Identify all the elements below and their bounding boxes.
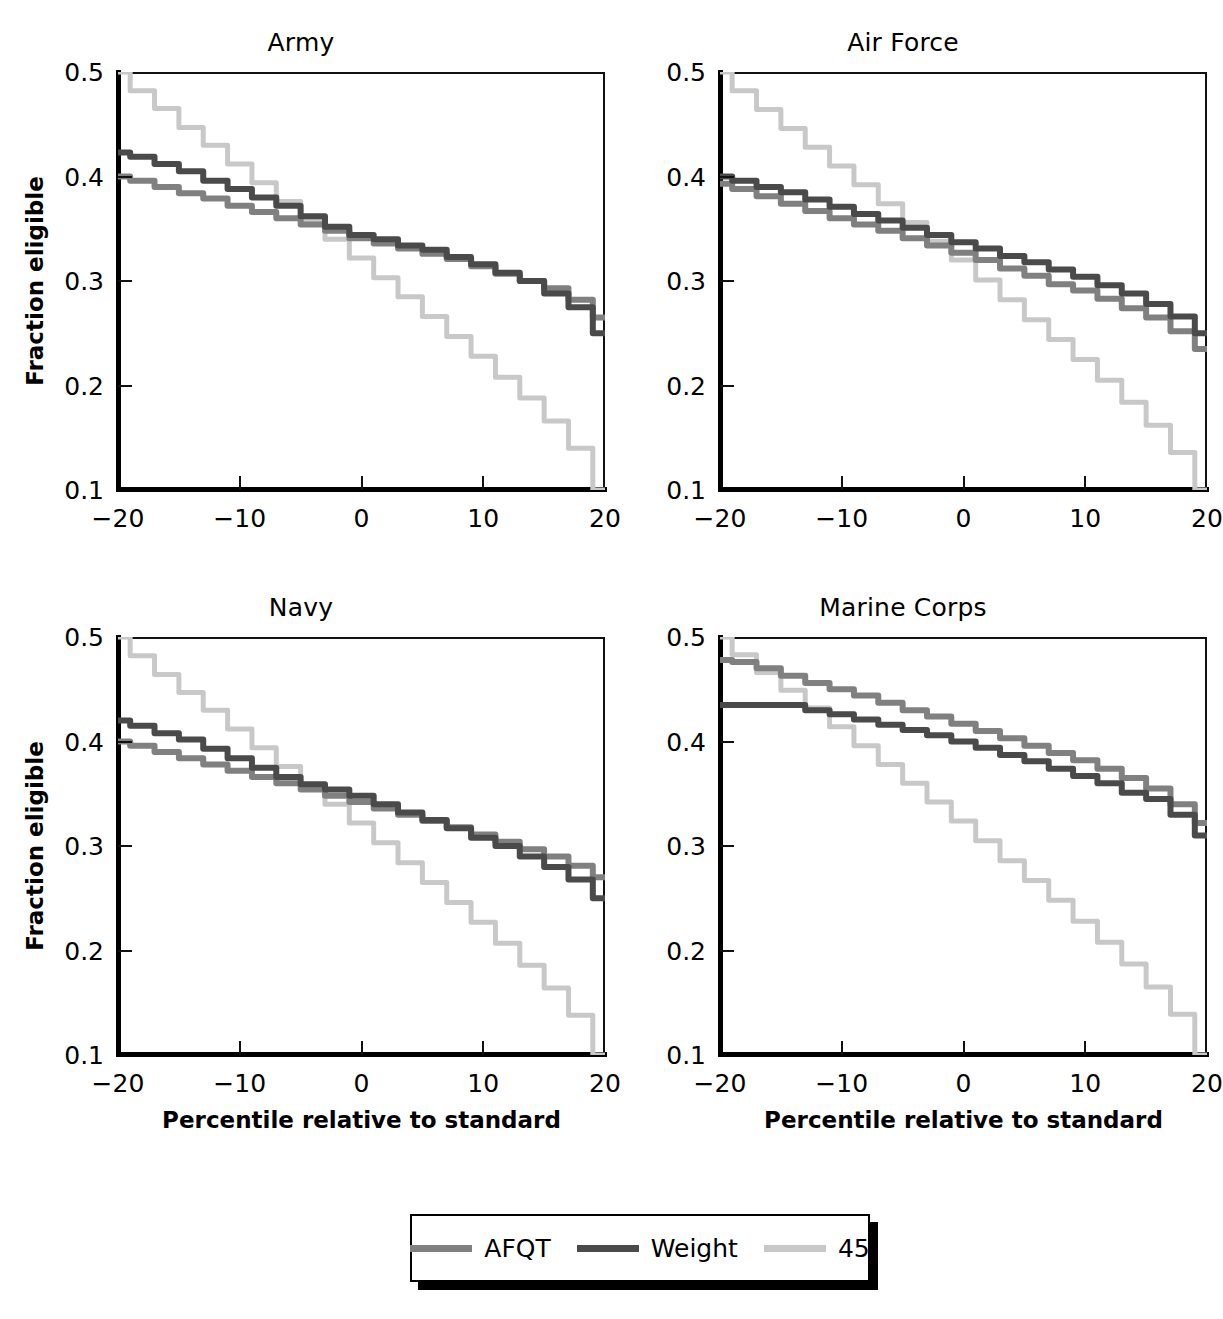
y-tick-label: 0.2	[64, 936, 104, 965]
x-tick-mark	[361, 1041, 363, 1055]
y-tick-label: 0.3	[64, 832, 104, 861]
x-tick-mark	[841, 1041, 843, 1055]
y-tick-label: 0.3	[64, 267, 104, 296]
x-tick-label: 20	[1191, 504, 1223, 533]
y-tick-label: 0.4	[666, 162, 706, 191]
x-tick-label: 0	[354, 504, 370, 533]
y-tick-label: 0.4	[64, 727, 104, 756]
x-tick-mark	[963, 476, 965, 490]
panel-title: Army	[0, 28, 602, 57]
x-tick-mark	[841, 476, 843, 490]
y-tick-mark	[118, 845, 132, 847]
x-tick-label: 10	[467, 1069, 499, 1098]
series-lines	[118, 72, 605, 490]
panel-army: Army Fraction eligible 0.10.20.30.40.5 −…	[0, 20, 602, 590]
legend-item: 45	[764, 1234, 870, 1263]
x-tick-mark	[963, 1041, 965, 1055]
y-tick-label: 0.2	[64, 371, 104, 400]
x-tick-mark	[1084, 476, 1086, 490]
series-lines	[720, 637, 1207, 1055]
series-line-45	[720, 637, 1207, 1055]
x-tick-label: −10	[815, 1069, 868, 1098]
legend-item: AFQT	[410, 1234, 550, 1263]
y-tick-label: 0.3	[666, 832, 706, 861]
series-lines	[118, 637, 605, 1055]
x-tick-label: 10	[1069, 1069, 1101, 1098]
panel-marine-corps: Marine Corps 0.10.20.30.40.5 −20−1001020…	[602, 585, 1204, 1155]
legend-swatch	[764, 1245, 826, 1252]
y-tick-label: 0.1	[64, 476, 104, 505]
y-tick-mark	[720, 385, 734, 387]
x-tick-label: −10	[815, 504, 868, 533]
y-tick-mark	[118, 950, 132, 952]
series-line-afqt	[118, 177, 605, 318]
chart-grid: Army Fraction eligible 0.10.20.30.40.5 −…	[0, 0, 1204, 1190]
x-tick-mark	[1084, 1041, 1086, 1055]
x-tick-label: −20	[92, 1069, 145, 1098]
x-tick-label: 0	[956, 504, 972, 533]
y-tick-label: 0.5	[666, 58, 706, 87]
x-tick-mark	[482, 1041, 484, 1055]
legend-item: Weight	[577, 1234, 738, 1263]
y-tick-label: 0.5	[64, 58, 104, 87]
y-tick-label: 0.1	[64, 1041, 104, 1070]
x-tick-label: 0	[956, 1069, 972, 1098]
plot-area: 0.10.20.30.40.5 −20−1001020	[720, 72, 1207, 490]
y-axis-label: Fraction eligible	[20, 637, 50, 1055]
y-tick-mark	[720, 176, 734, 178]
panel-title: Air Force	[602, 28, 1204, 57]
chart-legend: AFQTWeight45	[410, 1214, 870, 1282]
x-tick-label: −10	[213, 1069, 266, 1098]
legend-swatch	[410, 1245, 472, 1252]
y-tick-label: 0.2	[666, 936, 706, 965]
x-tick-label: −20	[694, 504, 747, 533]
panel-navy: Navy Fraction eligible 0.10.20.30.40.5 −…	[0, 585, 602, 1155]
y-axis-label: Fraction eligible	[20, 72, 50, 490]
panel-title: Navy	[0, 593, 602, 622]
series-lines	[720, 72, 1207, 490]
y-tick-mark	[720, 280, 734, 282]
x-tick-mark	[482, 476, 484, 490]
x-tick-mark	[239, 476, 241, 490]
x-tick-label: 10	[467, 504, 499, 533]
series-line-45	[720, 72, 1207, 490]
y-tick-label: 0.2	[666, 371, 706, 400]
x-axis-label: Percentile relative to standard	[118, 1107, 605, 1133]
legend-label: AFQT	[484, 1234, 550, 1263]
y-tick-mark	[118, 280, 132, 282]
x-tick-label: −10	[213, 504, 266, 533]
legend-label: 45	[838, 1234, 870, 1263]
y-tick-label: 0.1	[666, 476, 706, 505]
x-tick-label: −20	[92, 504, 145, 533]
x-tick-label: −20	[694, 1069, 747, 1098]
series-line-afqt	[720, 184, 1207, 349]
x-tick-label: 20	[1191, 1069, 1223, 1098]
series-line-weight	[118, 721, 605, 899]
y-tick-label: 0.4	[64, 162, 104, 191]
y-tick-label: 0.5	[666, 623, 706, 652]
y-tick-label: 0.5	[64, 623, 104, 652]
y-tick-mark	[118, 176, 132, 178]
legend-label: Weight	[651, 1234, 738, 1263]
y-tick-mark	[118, 385, 132, 387]
plot-area: 0.10.20.30.40.5 −20−1001020	[720, 637, 1207, 1055]
y-tick-mark	[720, 950, 734, 952]
panel-air-force: Air Force 0.10.20.30.40.5 −20−1001020	[602, 20, 1204, 590]
y-tick-mark	[720, 741, 734, 743]
x-tick-mark	[361, 476, 363, 490]
y-tick-label: 0.3	[666, 267, 706, 296]
y-tick-mark	[720, 845, 734, 847]
y-tick-mark	[118, 741, 132, 743]
x-tick-label: 0	[354, 1069, 370, 1098]
y-tick-label: 0.4	[666, 727, 706, 756]
x-tick-mark	[239, 1041, 241, 1055]
series-line-weight	[118, 152, 605, 333]
x-tick-label: 10	[1069, 504, 1101, 533]
plot-area: 0.10.20.30.40.5 −20−1001020	[118, 637, 605, 1055]
series-line-45	[118, 637, 605, 1055]
legend-swatch	[577, 1245, 639, 1252]
y-tick-label: 0.1	[666, 1041, 706, 1070]
panel-title: Marine Corps	[602, 593, 1204, 622]
x-axis-label: Percentile relative to standard	[720, 1107, 1207, 1133]
plot-area: 0.10.20.30.40.5 −20−1001020	[118, 72, 605, 490]
